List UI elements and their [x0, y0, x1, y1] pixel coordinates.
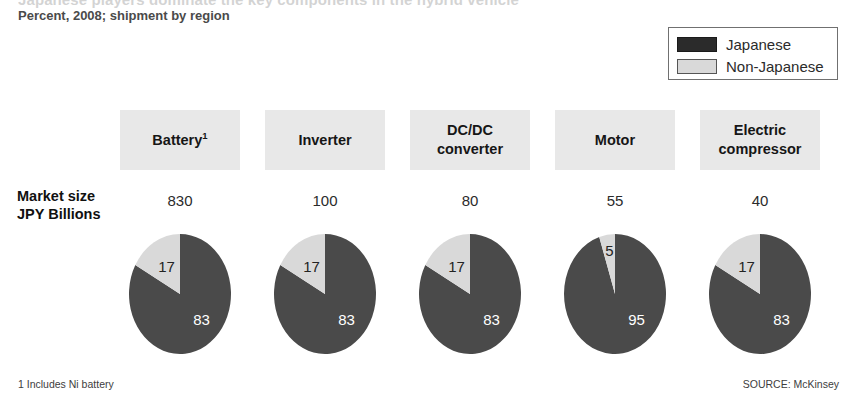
column-header-dcdc-converter-text: DC/DCconverter [437, 121, 503, 158]
legend-label-non-japanese: Non-Japanese [726, 58, 824, 75]
pie-slice-label: 17 [448, 258, 465, 275]
market-size-row-label: Market size JPY Billions [17, 188, 101, 224]
legend-item-non-japanese: Non-Japanese [677, 55, 837, 77]
market-size-value-electric-compressor: 40 [700, 192, 820, 209]
legend-item-japanese: Japanese [677, 33, 837, 55]
pie-slice-label: 17 [158, 258, 175, 275]
column-header-motor-text: Motor [595, 131, 635, 150]
pie-chart-battery: 8317 [128, 233, 232, 355]
column-header-motor: Motor [555, 110, 675, 170]
pie-chart-inverter: 8317 [273, 233, 377, 355]
market-size-value-battery: 830 [120, 192, 240, 209]
pie-slice-label: 95 [628, 311, 645, 328]
pie-slice-label: 83 [338, 311, 355, 328]
pie-chart-electric-compressor: 8317 [708, 233, 812, 355]
pie-slice-label: 83 [773, 311, 790, 328]
footnote-text: 1 Includes Ni battery [18, 378, 114, 390]
column-header-inverter: Inverter [265, 110, 385, 170]
column-header-inverter-text: Inverter [298, 131, 351, 150]
footnote-marker-1: 1 [202, 130, 207, 141]
pie-slice-label: 17 [738, 258, 755, 275]
market-size-value-inverter: 100 [265, 192, 385, 209]
column-header-battery: Battery1 [120, 110, 240, 170]
pie-chart-dcdc-converter: 8317 [418, 233, 522, 355]
market-size-value-motor: 55 [555, 192, 675, 209]
page-title: Japanese players dominate the key compon… [18, 0, 519, 8]
pie-slice-label: 83 [483, 311, 500, 328]
market-size-label-line2: JPY Billions [17, 206, 101, 222]
column-header-electric-compressor-text: Electriccompressor [718, 121, 801, 158]
pie-slice-label: 83 [193, 311, 210, 328]
pie-slice-japanese [564, 234, 666, 354]
column-header-battery-text: Battery1 [152, 130, 207, 149]
legend-swatch-japanese [677, 37, 717, 52]
legend: Japanese Non-Japanese [668, 27, 838, 80]
legend-swatch-non-japanese [677, 59, 717, 74]
pie-chart-motor: 955 [563, 233, 667, 355]
pie-slice-label: 5 [605, 242, 613, 259]
pie-slice-label: 17 [303, 258, 320, 275]
market-size-label-line1: Market size [17, 188, 95, 204]
column-header-electric-compressor: Electriccompressor [700, 110, 820, 170]
legend-label-japanese: Japanese [726, 36, 791, 53]
column-header-dcdc-converter: DC/DCconverter [410, 110, 530, 170]
source-text: SOURCE: McKinsey [743, 378, 839, 390]
page-subtitle: Percent, 2008; shipment by region [18, 8, 230, 23]
market-size-value-dcdc-converter: 80 [410, 192, 530, 209]
